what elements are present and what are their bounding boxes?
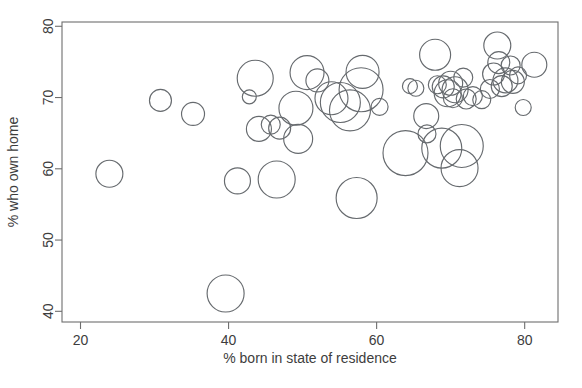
y-tick-label-40: 40: [40, 303, 56, 319]
y-tick-label-80: 80: [40, 18, 56, 34]
y-tick-label-70: 70: [40, 90, 56, 106]
data-point-bubble: [383, 131, 428, 176]
data-point-bubble: [315, 82, 348, 115]
data-point-bubble: [182, 102, 205, 125]
data-point-bubble: [402, 79, 417, 94]
bubble-chart-figure: 20406080 4050607080 % born in state of r…: [0, 0, 582, 388]
data-point-bubble: [336, 178, 377, 219]
data-point-bubble: [320, 83, 360, 123]
data-point-bubble: [420, 39, 451, 70]
y-tick-label-50: 50: [40, 232, 56, 248]
data-point-bubble: [237, 60, 273, 96]
data-point-bubble: [329, 90, 370, 131]
data-point-bubble: [454, 68, 473, 87]
data-point-bubble: [258, 161, 295, 198]
data-point-bubble: [149, 89, 171, 111]
data-point-bubble: [522, 52, 547, 77]
data-point-bubble: [96, 160, 123, 187]
plot-area-frame: [62, 22, 558, 322]
y-axis-title: % who own home: [5, 117, 21, 228]
x-axis-title: % born in state of residence: [223, 350, 397, 366]
x-axis-tick-labels: 20406080: [73, 332, 533, 348]
y-tick-label-60: 60: [40, 161, 56, 177]
data-point-bubble: [515, 100, 531, 116]
x-axis-ticks: [81, 322, 525, 329]
x-tick-label-20: 20: [73, 332, 89, 348]
data-point-bubble: [207, 275, 244, 312]
data-point-bubble: [408, 80, 424, 96]
data-point-bubble: [246, 116, 271, 141]
y-axis-ticks: [55, 26, 62, 311]
data-point-bubble: [224, 168, 250, 194]
x-tick-label-80: 80: [517, 332, 533, 348]
y-axis-tick-labels: 4050607080: [40, 18, 56, 319]
x-tick-label-60: 60: [369, 332, 385, 348]
data-point-layer: [96, 32, 547, 312]
scatter-plot-canvas: 20406080 4050607080 % born in state of r…: [0, 0, 582, 388]
x-tick-label-40: 40: [221, 332, 237, 348]
data-point-bubble: [279, 91, 313, 125]
data-point-bubble: [284, 124, 313, 153]
